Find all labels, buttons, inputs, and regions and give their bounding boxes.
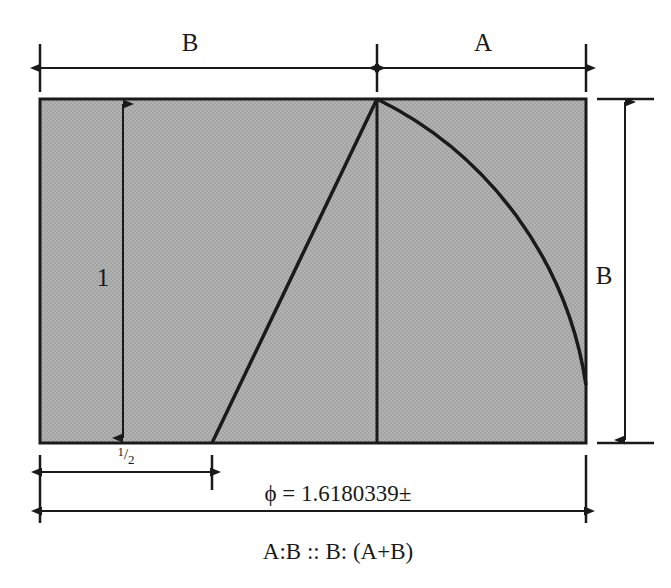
phi-value-label: ϕ = 1.6180339± [265,481,412,506]
right-height-dimension-label: B [596,262,613,289]
left-height-dimension-label: 1 [97,264,110,291]
fraction-denominator: 2 [128,452,135,467]
figure-canvas: B A 1 B 1/2 ϕ = 1.6180339± A:B :: B: (A+… [0,0,671,588]
proportion-caption: A:B :: B: (A+B) [263,539,413,564]
golden-rectangle [40,99,586,443]
bottom-half-dimension-label: 1/2 [117,444,134,467]
top-dimension-label-A: A [474,29,492,56]
golden-ratio-figure: B A 1 B 1/2 ϕ = 1.6180339± A:B :: B: (A+… [0,0,671,588]
top-dimension-label-B: B [182,29,199,56]
